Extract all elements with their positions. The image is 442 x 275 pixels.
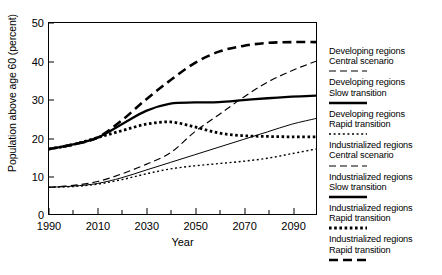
legend-line-sample (329, 224, 367, 232)
y-tick-mark (49, 100, 54, 101)
legend-entry-region: Industrialized regions (329, 172, 439, 182)
y-tick-mark (49, 61, 54, 62)
legend-entry: Industrialized regionsSlow transition (329, 172, 439, 201)
plot-area: Year 1020304050199020102030205020702090 (48, 22, 317, 215)
x-tick-label: 2090 (281, 220, 305, 232)
legend-line-sample (329, 99, 367, 107)
x-tick-label: 1990 (37, 220, 61, 232)
legend-entry-region: Industrialized regions (329, 140, 439, 150)
legend-line-sample (329, 256, 367, 264)
x-tick-mark-minor (171, 210, 172, 214)
legend-line-sample (329, 193, 367, 201)
legend-entry-scenario: Slow transition (329, 88, 439, 98)
y-tick-label: 10 (32, 171, 44, 183)
y-tick-mark (49, 138, 54, 139)
x-tick-mark (49, 208, 50, 214)
x-tick-mark (195, 208, 196, 214)
legend-entry-scenario: Central scenario (329, 56, 439, 66)
legend-entry-region: Industrialized regions (329, 203, 439, 213)
x-tick-mark-minor (220, 210, 221, 214)
y-tick-label: 20 (32, 133, 44, 145)
legend-entry-region: Industrialized regions (329, 234, 439, 244)
legend-line-sample (329, 162, 367, 170)
chart-legend: Developing regionsCentral scenarioDevelo… (329, 46, 439, 266)
x-tick-label: 2050 (183, 220, 207, 232)
legend-entry: Industrialized regionsCentral scenario (329, 140, 439, 169)
y-tick-label: 40 (32, 56, 44, 68)
legend-entry-region: Developing regions (329, 109, 439, 119)
x-tick-label: 2010 (86, 220, 110, 232)
chart-figure: Population above age 60 (percent) 0 Year… (0, 0, 442, 275)
series-line (49, 42, 316, 149)
legend-entry-region: Developing regions (329, 46, 439, 56)
legend-line-sample (329, 130, 367, 138)
y-axis-title: Population above age 60 (percent) (6, 0, 18, 275)
legend-entry-scenario: Rapid transition (329, 213, 439, 223)
series-line (49, 122, 316, 149)
legend-entry: Industrialized regionsRapid transition (329, 203, 439, 232)
legend-entry: Developing regionsSlow transition (329, 77, 439, 106)
series-line (49, 119, 316, 188)
y-tick-mark (49, 23, 54, 24)
legend-entry-scenario: Central scenario (329, 150, 439, 160)
x-tick-label: 2070 (232, 220, 256, 232)
x-tick-mark (146, 208, 147, 214)
legend-entry-scenario: Rapid transition (329, 245, 439, 255)
x-tick-mark-minor (73, 210, 74, 214)
x-tick-mark (293, 208, 294, 214)
legend-entry-region: Developing regions (329, 77, 439, 87)
legend-entry-scenario: Rapid transition (329, 119, 439, 129)
y-tick-label: 30 (32, 94, 44, 106)
series-line (49, 96, 316, 149)
x-tick-mark (244, 208, 245, 214)
series-line (49, 149, 316, 187)
x-tick-mark (97, 208, 98, 214)
legend-line-sample (329, 67, 367, 75)
series-line (49, 61, 316, 187)
curve-layer (49, 23, 316, 214)
y-tick-label: 50 (32, 17, 44, 29)
legend-entry-scenario: Slow transition (329, 182, 439, 192)
x-axis-title: Year (49, 236, 316, 248)
x-tick-mark-minor (269, 210, 270, 214)
legend-entry: Industrialized regionsRapid transition (329, 234, 439, 263)
legend-entry: Developing regionsCentral scenario (329, 46, 439, 75)
y-tick-mark (49, 177, 54, 178)
legend-entry: Developing regionsRapid transition (329, 109, 439, 138)
x-tick-mark-minor (122, 210, 123, 214)
x-tick-label: 2030 (135, 220, 159, 232)
